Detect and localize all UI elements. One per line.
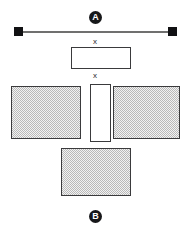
upper-open-box xyxy=(71,47,131,69)
dimension-cap-left-icon xyxy=(14,27,23,36)
left-hatched-block xyxy=(11,86,81,139)
top-section-badge: A xyxy=(89,11,102,24)
dimension-cap-right-icon xyxy=(168,27,177,36)
gap-dimension-lower-label: x xyxy=(89,72,101,80)
bottom-hatched-block xyxy=(61,148,131,196)
bottom-section-badge: B xyxy=(89,210,102,223)
technical-diagram: A x x B xyxy=(0,0,191,238)
center-open-channel xyxy=(90,84,111,142)
dimension-line xyxy=(18,31,173,33)
right-hatched-block xyxy=(113,86,180,139)
gap-dimension-upper-label: x xyxy=(89,38,101,46)
